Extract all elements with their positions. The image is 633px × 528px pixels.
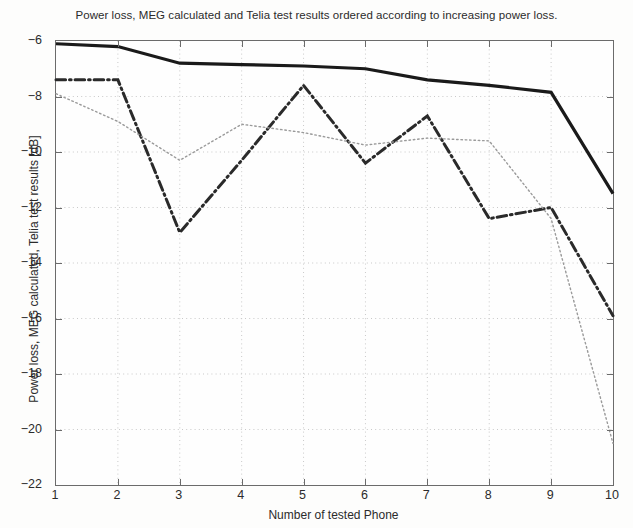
y-tick-label: −8 [0, 89, 48, 103]
x-tick-label: 9 [547, 488, 554, 502]
gridlines [56, 41, 613, 485]
y-tickmark [607, 97, 613, 98]
y-tickmark [56, 430, 62, 431]
y-tick-label: −12 [0, 200, 48, 214]
data-series-layer [56, 44, 613, 444]
series-line-1 [56, 44, 613, 194]
x-tickmark [427, 479, 428, 485]
y-tickmark [607, 152, 613, 153]
x-tick-label: 7 [423, 488, 430, 502]
plot-area [55, 40, 614, 486]
x-tick-label: 3 [175, 488, 182, 502]
x-tickmark [242, 479, 243, 485]
x-tickmark [551, 479, 552, 485]
x-tickmark [118, 41, 119, 47]
x-tick-label: 8 [485, 488, 492, 502]
plot-canvas [56, 41, 613, 485]
x-tickmark [118, 479, 119, 485]
x-tick-label: 5 [299, 488, 306, 502]
y-tick-label: −18 [0, 366, 48, 380]
y-tickmark [56, 208, 62, 209]
y-tickmark [56, 374, 62, 375]
y-tickmark [607, 263, 613, 264]
x-tickmark [427, 41, 428, 47]
x-tickmark [242, 41, 243, 47]
y-tick-label: −6 [0, 33, 48, 47]
x-tickmark [304, 41, 305, 47]
x-axis-label: Number of tested Phone [55, 508, 612, 522]
x-tickmark [180, 479, 181, 485]
y-tickmark [56, 97, 62, 98]
x-tickmark [365, 41, 366, 47]
y-tickmark [607, 374, 613, 375]
series-line-3 [56, 94, 613, 444]
y-tickmark [607, 208, 613, 209]
y-tick-label: −10 [0, 144, 48, 158]
x-tickmark [304, 479, 305, 485]
x-tick-label: 2 [113, 488, 120, 502]
x-tick-label: 4 [237, 488, 244, 502]
y-tick-label: −16 [0, 311, 48, 325]
y-tickmark [56, 319, 62, 320]
y-tick-label: −14 [0, 255, 48, 269]
x-tick-label: 10 [605, 488, 619, 502]
y-tickmark [56, 152, 62, 153]
x-tickmark [180, 41, 181, 47]
x-tickmark [551, 41, 552, 47]
y-tickmark [56, 263, 62, 264]
x-tickmark [365, 479, 366, 485]
y-axis-label: Power loss, MEG calculated, Telia test r… [27, 59, 41, 479]
y-tickmark [607, 319, 613, 320]
y-tickmark [607, 430, 613, 431]
x-tick-label: 6 [361, 488, 368, 502]
series-line-2 [56, 80, 613, 316]
x-tick-label: 1 [52, 488, 59, 502]
y-tick-label: −22 [0, 477, 48, 491]
y-tick-label: −20 [0, 422, 48, 436]
x-tickmark [489, 41, 490, 47]
chart-title: Power loss, MEG calculated and Telia tes… [0, 9, 633, 21]
chart-figure: Power loss, MEG calculated and Telia tes… [0, 0, 633, 528]
x-tickmark [489, 479, 490, 485]
